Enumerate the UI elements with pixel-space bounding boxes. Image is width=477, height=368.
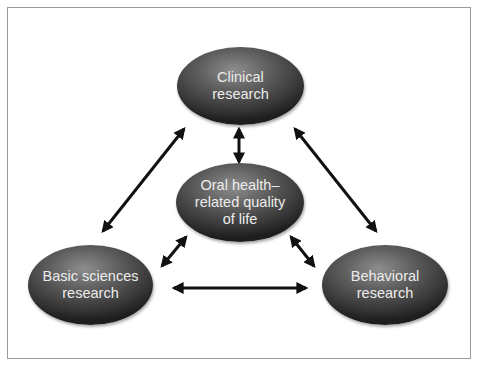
node-label: Oral health– related quality of life — [195, 177, 285, 228]
arrow-oral-basic — [162, 237, 186, 266]
node-label: Basic sciences research — [43, 268, 139, 302]
node-clinical-research: Clinical research — [177, 47, 304, 125]
node-basic-sciences-research: Basic sciences research — [28, 245, 153, 325]
node-label: Clinical research — [212, 69, 268, 103]
node-oral-health-quality-of-life: Oral health– related quality of life — [176, 163, 304, 242]
node-label: Behavioral research — [351, 268, 420, 302]
arrow-clinical-basic — [103, 129, 184, 231]
arrow-oral-behavioral — [291, 237, 314, 266]
arrow-clinical-behavioral — [295, 129, 376, 231]
node-behavioral-research: Behavioral research — [322, 245, 448, 325]
